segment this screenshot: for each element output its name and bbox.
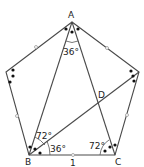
vertex-label-A: A (68, 10, 75, 20)
vertex-label-C: C (115, 157, 121, 167)
angle-label-B-upper: 72° (36, 131, 52, 141)
diagonal-AC (72, 22, 115, 155)
angle-dot (108, 145, 111, 148)
side-tick-mark (72, 154, 75, 157)
angle-label-C: 72° (89, 141, 105, 151)
angle-dot (8, 80, 11, 83)
point-label-D: D (98, 90, 105, 100)
angle-dot (129, 69, 132, 72)
angle-dot (38, 151, 41, 154)
angle-dot (33, 147, 36, 150)
angle-dot (11, 74, 14, 77)
angle-dot (132, 79, 135, 82)
side-tick-mark (35, 46, 38, 49)
angle-label-A: 36° (63, 47, 79, 57)
pentagon-outline (6, 22, 139, 155)
angle-dot (76, 27, 79, 30)
side-length-label: 1 (70, 158, 76, 167)
angle-dot (11, 68, 14, 71)
angle-dot (113, 143, 116, 146)
angle-arc-A (66, 41, 78, 43)
diagonal-BR (29, 72, 139, 155)
angle-label-B-lower: 36° (50, 144, 66, 154)
angle-dot (28, 145, 31, 148)
angle-dot (131, 74, 134, 77)
angle-dot (70, 30, 73, 33)
vertex-label-B: B (25, 157, 31, 167)
side-tick-mark (126, 114, 129, 117)
angle-dot (64, 27, 67, 30)
pentagon-diagram: A B C D 1 36° 72° 36° 72° (0, 0, 144, 167)
side-tick-mark (16, 115, 19, 118)
side-tick-mark (106, 47, 109, 50)
